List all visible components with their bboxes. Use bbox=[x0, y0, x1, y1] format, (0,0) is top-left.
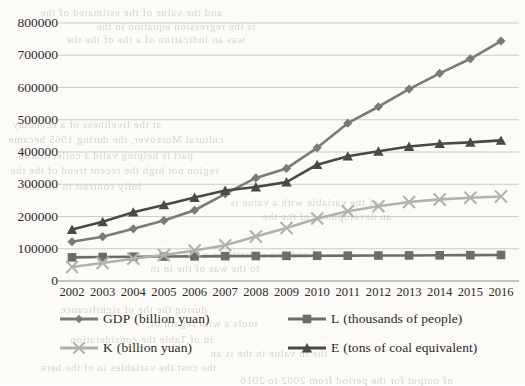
legend-series-name: L bbox=[331, 311, 339, 326]
x-axis-tick-label: 2010 bbox=[305, 286, 330, 299]
x-axis-ticks: 2002200320042005200620072008200920102011… bbox=[0, 286, 525, 304]
x-axis-tick-label: 2013 bbox=[396, 286, 421, 299]
legend-marker-diamond-icon bbox=[58, 312, 100, 326]
y-axis-tick-label: 400000 bbox=[18, 145, 59, 159]
x-axis-tick-label: 2015 bbox=[458, 286, 483, 299]
legend-series-name: GDP bbox=[103, 311, 130, 326]
legend-label: GDP(billion yuan) bbox=[103, 311, 210, 327]
legend-series-unit: (billion yuan) bbox=[134, 311, 209, 326]
y-axis-tick-label: 700000 bbox=[18, 49, 59, 63]
legend-series-name: K bbox=[103, 340, 113, 355]
legend-item-l[interactable]: L(thousands of people) bbox=[286, 311, 462, 327]
legend-series-unit: (billion yuan) bbox=[117, 340, 192, 355]
legend-series-unit: (tons of coal equivalent) bbox=[343, 340, 477, 355]
data-series-layer bbox=[66, 36, 507, 273]
y-axis-tick-label: 200000 bbox=[18, 210, 59, 224]
legend-label: L(thousands of people) bbox=[331, 311, 462, 327]
series-e bbox=[67, 135, 506, 234]
y-axis-tick-label: 500000 bbox=[18, 113, 59, 127]
x-axis-tick-label: 2009 bbox=[274, 286, 299, 299]
x-axis-tick-label: 2007 bbox=[213, 286, 238, 299]
x-axis-tick-label: 2011 bbox=[335, 286, 360, 299]
x-axis-tick-label: 2005 bbox=[151, 286, 176, 299]
y-axis-tick-label: 300000 bbox=[18, 178, 59, 192]
legend-label: K(billion yuan) bbox=[103, 340, 192, 356]
chart-legend: GDP(billion yuan)L(thousands of people)K… bbox=[58, 311, 508, 369]
x-axis-tick-label: 2008 bbox=[243, 286, 268, 299]
x-axis-tick-label: 2014 bbox=[427, 286, 452, 299]
x-axis-tick-label: 2012 bbox=[366, 286, 391, 299]
x-axis-tick-label: 2002 bbox=[59, 286, 84, 299]
gridlines bbox=[58, 23, 519, 281]
legend-item-e[interactable]: E(tons of coal equivalent) bbox=[286, 340, 477, 356]
x-axis-tick-label: 2016 bbox=[488, 286, 513, 299]
y-axis-tick-label: 600000 bbox=[18, 81, 59, 95]
y-axis-ticks: 0100000200000300000400000500000600000700… bbox=[0, 0, 58, 383]
legend-label: E(tons of coal equivalent) bbox=[331, 340, 477, 356]
legend-marker-triangle-icon bbox=[286, 341, 328, 355]
x-axis-tick-label: 2004 bbox=[121, 286, 146, 299]
legend-marker-square-icon bbox=[286, 312, 328, 326]
legend-series-name: E bbox=[331, 340, 339, 355]
x-axis-tick-label: 2003 bbox=[90, 286, 115, 299]
y-axis-tick-label: 800000 bbox=[18, 16, 59, 30]
legend-series-unit: (thousands of people) bbox=[343, 311, 462, 326]
legend-item-k[interactable]: K(billion yuan) bbox=[58, 340, 192, 356]
x-axis-tick-label: 2006 bbox=[182, 286, 207, 299]
y-axis-tick-label: 100000 bbox=[18, 242, 59, 256]
legend-marker-star-icon bbox=[58, 341, 100, 355]
legend-item-gdp[interactable]: GDP(billion yuan) bbox=[58, 311, 210, 327]
